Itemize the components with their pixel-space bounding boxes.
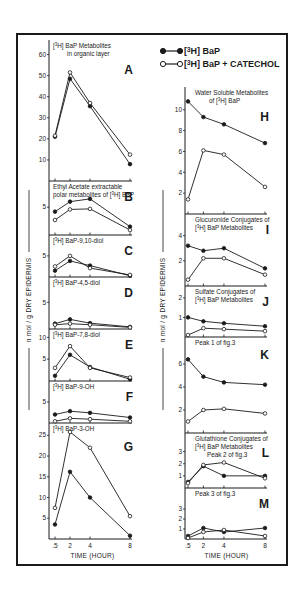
series-line [188,150,265,199]
y-tick-label: 2 [178,257,182,264]
y-tick-label: 2 [178,294,182,301]
panel-title: [3H] BaP Metabolites [195,296,253,304]
series-line [55,418,130,421]
panel-e: 510[3H] BaP-7,8-diolE [39,329,133,381]
panel-title: polar metabolites of [3H] BaP [53,191,134,199]
open-marker [68,254,72,258]
panel-b: 5Ethyl Acetate extractablepolar metaboli… [42,181,134,235]
x-axis-title: TIME (HOUR) [204,552,248,560]
panel-title: Peak 1 of fig.3 [195,339,236,347]
y-tick-label: 5 [42,203,46,210]
open-marker [88,207,92,211]
panel-letter: D [124,286,133,300]
open-marker [128,153,132,157]
y-tick-label: 2 [178,515,182,522]
svg-text:n mol / g DRY EPIDERMIS: n mol / g DRY EPIDERMIS [25,257,33,342]
legend: [3H] BaP[3H] BaP + CATECHOL [160,46,280,69]
y-axis-title: n mol / g DRY EPIDERMIS [159,190,167,410]
open-marker [88,101,92,105]
legend-item: [3H] BaP + CATECHOL [160,59,280,69]
open-marker [68,417,72,421]
open-marker [222,461,226,465]
y-tick-label: 5 [42,252,46,259]
filled-marker [53,413,57,417]
filled-marker [202,115,206,119]
open-marker [128,228,132,232]
series-line [55,256,130,275]
y-tick-label: 2 [178,460,182,467]
filled-marker [202,375,206,379]
open-marker [263,329,267,333]
series-line [55,209,130,230]
open-marker [202,408,206,412]
open-marker [263,185,267,189]
open-marker [88,446,92,450]
open-marker [202,530,206,534]
panel-title: [3H] BaP-7,8-diol [53,331,100,339]
panel-f: 5[3H] BaP-9-OHF [42,381,133,423]
filled-marker [202,526,206,530]
y-tick-label: 15 [39,473,47,480]
panel-title: Sulfate Conjugates of [195,288,255,296]
panel-c: 5[3H] BaP-9,10-diolC [42,235,133,278]
open-marker [88,266,92,270]
y-tick-label: 3 [178,505,182,512]
y-tick-label: 2 [178,189,182,196]
open-marker [202,256,206,260]
y-tick-label: 4 [178,383,182,390]
panel-title: [3H] BaP Metabolites [195,224,253,232]
panel-title: Peak 2 of fig.3 [207,451,248,459]
y-tick-label: 25 [39,431,47,438]
filled-marker [222,381,226,385]
filled-marker [263,526,267,530]
x-tick-label: 4 [88,542,92,549]
y-tick-label: 10 [39,334,47,341]
panel-title: Glucuronide Conjugates of [195,216,270,224]
y-tick-label: 1 [178,314,182,321]
svg-text:[3H] BaP + CATECHOL: [3H] BaP + CATECHOL [184,59,280,69]
y-tick-label: 6 [178,360,182,367]
y-tick-label: 10 [175,106,183,113]
panel-title: Water Soluble Metabolites [195,89,268,96]
open-marker [128,514,132,518]
x-tick-label: 2 [202,542,206,549]
y-tick-label: 10 [39,494,47,501]
panel-title: [3H] BaP Metabolites [53,42,111,50]
panel-letter: I [266,223,269,237]
open-marker [222,153,226,157]
panel-title: in organic layer [67,50,110,58]
y-tick-label: 5 [42,514,46,521]
panel-letter: M [259,497,269,511]
filled-marker [186,358,190,362]
filled-marker [128,534,132,538]
panel-k: 246Peak 1 of fig.3K [178,337,269,433]
open-marker [88,417,92,421]
filled-marker [53,269,57,273]
x-axis-title: TIME (HOUR) [70,552,114,560]
series-line [188,528,265,536]
filled-marker [222,474,226,478]
filled-marker [263,383,267,387]
figure-canvas: [3H] BaP[3H] BaP + CATECHOL102030405060[… [0,0,307,595]
x-tick-label: 2 [68,542,72,549]
open-marker [186,278,190,282]
series-line [188,101,265,143]
panel-letter: B [124,190,133,204]
open-marker [128,376,132,380]
y-tick-label: 20 [39,452,47,459]
panel-title: [3H] BaP-9,10-diol [53,237,103,245]
y-tick-label: 30 [39,114,47,121]
y-tick-label: 50 [39,72,47,79]
open-marker [68,71,72,75]
open-marker [88,366,92,370]
filled-marker [186,316,190,320]
filled-marker [68,259,72,263]
panel-a: 102030405060[3H] BaP Metabolitesin organ… [39,40,134,181]
open-marker [263,534,267,538]
filled-marker [186,100,190,104]
series-line [188,463,265,484]
filled-marker [263,324,267,328]
open-marker [53,506,57,510]
series-line [188,317,265,326]
panel-title: [3H] BaP-9-OH [53,383,95,391]
